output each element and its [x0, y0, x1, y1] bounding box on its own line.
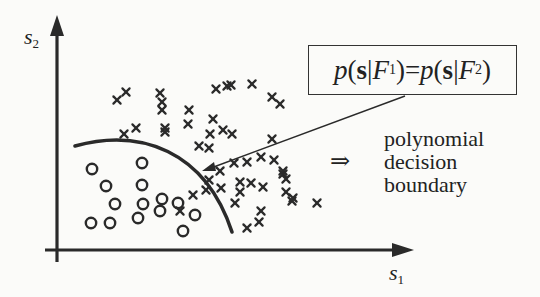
circle-icon — [190, 210, 200, 220]
cross-icon — [236, 188, 243, 195]
cross-icon — [255, 218, 262, 225]
circle-icon — [87, 164, 97, 174]
x-axis — [45, 243, 414, 257]
boundary-annotation: ⇒ polynomial decision boundary — [330, 127, 484, 196]
circle-icon — [173, 198, 183, 208]
implies-arrow-icon: ⇒ — [330, 150, 350, 173]
cross-icon — [217, 184, 224, 191]
cross-icon — [209, 115, 216, 122]
cross-icon — [158, 106, 165, 113]
class-f1-points — [86, 158, 200, 236]
cross-icon — [268, 93, 275, 100]
y-axis-label-sub: 2 — [33, 36, 40, 51]
x-axis-label: s1 — [389, 262, 404, 286]
cross-icon — [189, 191, 196, 198]
cross-icon — [122, 88, 129, 95]
cross-icon — [230, 159, 237, 166]
formula-box: p (s|F1) = p (s|F2) — [308, 45, 517, 95]
cross-icon — [270, 156, 277, 163]
y-axis-arrow-icon — [50, 15, 64, 36]
cross-icon — [257, 207, 264, 214]
cross-icon — [212, 85, 219, 92]
cross-icon — [236, 178, 243, 185]
circle-icon — [101, 181, 111, 191]
circle-icon — [86, 218, 96, 228]
cross-icon — [228, 130, 235, 137]
annotation-line-1: polynomial — [330, 127, 484, 150]
cross-icon — [231, 199, 238, 206]
formula-rhs-class: F — [459, 55, 476, 86]
cross-icon — [206, 130, 213, 137]
cross-icon — [247, 179, 254, 186]
cross-icon — [216, 167, 223, 174]
cross-icon — [219, 126, 226, 133]
y-axis — [50, 15, 64, 262]
formula-lhs-sub: 1 — [389, 62, 396, 78]
x-axis-arrow-icon — [392, 243, 414, 257]
circle-icon — [155, 206, 165, 216]
formula-rhs-open: ( — [434, 55, 443, 86]
circle-icon — [138, 199, 148, 209]
circle-icon — [105, 218, 115, 228]
formula-lhs-open: ( — [347, 55, 356, 86]
cross-icon — [259, 183, 266, 190]
cross-icon — [158, 98, 165, 105]
cross-icon — [185, 106, 192, 113]
formula-rhs-sub: 2 — [475, 62, 482, 78]
formula-rhs-vector: s — [443, 55, 454, 86]
circle-icon — [110, 199, 120, 209]
circle-icon — [133, 213, 143, 223]
cross-icon — [248, 80, 255, 87]
formula-rhs-close: ) — [482, 55, 491, 86]
cross-icon — [132, 124, 139, 131]
y-axis-label: s2 — [24, 26, 39, 50]
cross-icon — [243, 158, 250, 165]
cross-icon — [120, 130, 127, 137]
cross-icon — [257, 153, 264, 160]
x-axis-label-sub: 1 — [398, 272, 405, 287]
circle-icon — [178, 226, 188, 236]
formula-lhs-p: p — [334, 55, 348, 86]
circle-icon — [137, 158, 147, 168]
pointer-arrowhead-icon — [202, 162, 216, 171]
circle-icon — [157, 194, 167, 204]
cross-icon — [205, 144, 212, 151]
cross-icon — [195, 142, 202, 149]
formula-lhs-class: F — [372, 55, 389, 86]
y-axis-label-var: s — [24, 24, 33, 49]
cross-icon — [184, 120, 191, 127]
cross-icon — [276, 100, 283, 107]
annotation-line-3: boundary — [330, 173, 484, 196]
cross-icon — [313, 199, 320, 206]
formula-lhs-close: ) — [396, 55, 405, 86]
formula-lhs-vector: s — [356, 55, 367, 86]
formula-equals: = — [405, 55, 420, 86]
cross-icon — [113, 96, 120, 103]
x-axis-label-var: s — [389, 260, 398, 285]
cross-icon — [156, 89, 163, 96]
cross-icon — [202, 186, 209, 193]
formula-rhs-p: p — [420, 55, 434, 86]
cross-icon — [268, 135, 275, 142]
annotation-line-2: decision — [330, 150, 484, 173]
circle-icon — [137, 180, 147, 190]
cross-icon — [243, 224, 250, 231]
